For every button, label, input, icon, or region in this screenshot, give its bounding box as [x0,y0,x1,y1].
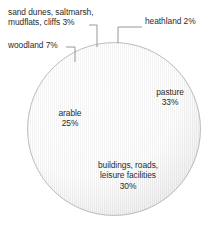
label-heathland: heathland 2% [145,16,196,26]
label-pasture-name: pasture [139,87,201,97]
label-buildings-line1: buildings, roads, [76,160,180,170]
label-sand-dunes-line1: sand dunes, saltmarsh, [8,7,94,17]
label-buildings-line2: leisure facilities [76,170,180,180]
leader-line-heathland [118,27,142,43]
label-buildings: buildings, roads, leisure facilities 30% [76,160,180,191]
label-pasture-value: 33% [139,97,201,107]
label-woodland-text: woodland 7% [8,40,58,50]
label-arable-name: arable [42,108,98,118]
label-woodland: woodland 7% [8,40,58,50]
label-heathland-text: heathland 2% [145,16,196,26]
label-sand-dunes: sand dunes, saltmarsh, mudflats, cliffs … [8,7,94,28]
pie-chart-figure: sand dunes, saltmarsh, mudflats, cliffs … [0,0,223,228]
label-buildings-value: 30% [76,181,180,191]
label-arable: arable 25% [42,108,98,129]
pie-chart-graphic [0,0,223,228]
label-arable-value: 25% [42,118,98,128]
label-pasture: pasture 33% [139,87,201,108]
label-sand-dunes-line2: mudflats, cliffs 3% [8,17,94,27]
